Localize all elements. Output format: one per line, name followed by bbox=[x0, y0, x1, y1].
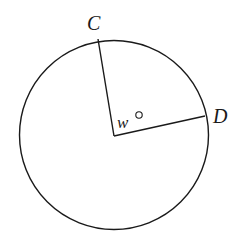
angle-variable: w bbox=[117, 113, 129, 132]
circle-diagram: C D w bbox=[0, 0, 237, 248]
angle-label: w bbox=[117, 113, 129, 132]
radius-to-c bbox=[98, 39, 114, 136]
degree-symbol-icon bbox=[136, 112, 142, 118]
point-label-d: D bbox=[212, 105, 228, 127]
point-label-c: C bbox=[87, 12, 101, 34]
